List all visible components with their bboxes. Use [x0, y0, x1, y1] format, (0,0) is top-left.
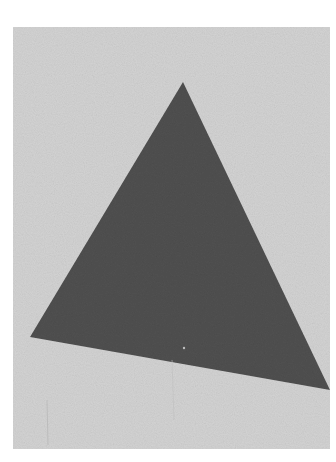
image-canvas — [0, 0, 336, 462]
speck — [183, 347, 185, 349]
triangle-figure — [0, 0, 336, 462]
